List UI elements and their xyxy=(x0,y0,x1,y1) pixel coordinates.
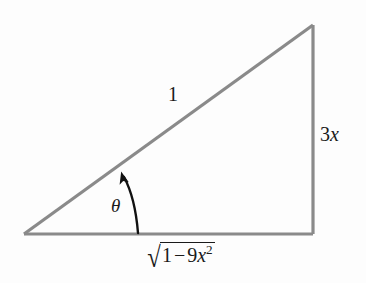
radicand-one-text: 1 xyxy=(162,244,172,266)
triangle-hypotenuse-side xyxy=(24,25,313,234)
square-root-expression: √1−9x2 xyxy=(146,243,215,272)
radical-sign-icon: √ xyxy=(147,243,161,272)
opposite-coefficient-text: 3 xyxy=(320,123,330,145)
triangle-drawing xyxy=(0,0,366,283)
opposite-side-label: 3x xyxy=(320,124,339,144)
radicand-group: 1−9x2 xyxy=(160,242,215,265)
hypotenuse-label: 1 xyxy=(168,84,178,104)
angle-label: θ xyxy=(111,196,120,215)
hypotenuse-label-text: 1 xyxy=(168,83,178,105)
radicand-operator-text: − xyxy=(172,244,187,266)
angle-label-text: θ xyxy=(111,195,120,216)
radicand-variable-text: x xyxy=(197,244,206,266)
radicand-exponent-text: 2 xyxy=(206,242,213,257)
adjacent-side-label: √1−9x2 xyxy=(146,243,215,272)
angle-arc xyxy=(124,177,138,233)
trigonometry-triangle-figure: 1 3x θ √1−9x2 xyxy=(0,0,366,283)
radicand-coefficient-text: 9 xyxy=(187,244,197,266)
opposite-variable-text: x xyxy=(330,123,339,145)
